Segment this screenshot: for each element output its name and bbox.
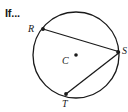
- point-S-dot: [116, 50, 120, 54]
- point-label-t: T: [62, 99, 68, 109]
- chord-ST: [66, 52, 120, 94]
- point-label-c: C: [62, 56, 69, 66]
- chord-RS: [43, 29, 120, 52]
- point-label-r: R: [28, 24, 34, 34]
- point-T-dot: [64, 92, 68, 96]
- geometry-figure: If... R C T S: [0, 0, 128, 112]
- point-label-s: S: [122, 46, 127, 56]
- center-dot: [74, 53, 78, 57]
- point-R-dot: [41, 27, 45, 31]
- prompt-text: If...: [5, 7, 20, 19]
